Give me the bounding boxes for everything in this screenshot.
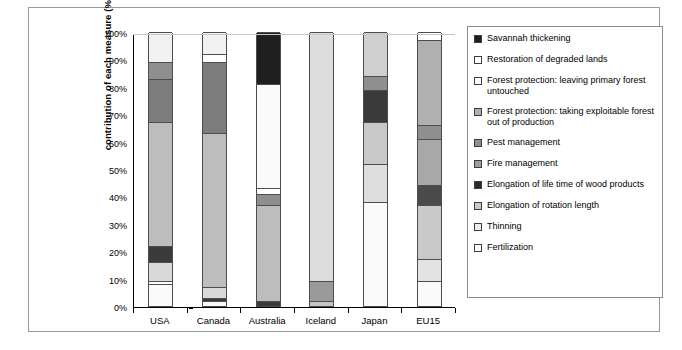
bar-segment[interactable] (257, 84, 280, 188)
legend-swatch-icon (474, 35, 482, 43)
bar-segment[interactable] (149, 79, 172, 123)
bar-segment[interactable] (149, 122, 172, 245)
bar-segment[interactable] (203, 301, 226, 306)
y-tick-label: 60% (89, 140, 127, 149)
stacked-bar[interactable] (148, 33, 173, 307)
stacked-bar[interactable] (309, 33, 334, 307)
x-tick-mark (455, 308, 456, 313)
bar-segment[interactable] (149, 246, 172, 262)
stacked-bar[interactable] (363, 33, 388, 307)
x-tick-mark (187, 308, 188, 313)
y-tick-label: 30% (89, 222, 127, 231)
bar-segment[interactable] (203, 287, 226, 298)
bar-segment[interactable] (364, 202, 387, 306)
bar-segment[interactable] (310, 281, 333, 300)
stacked-bar[interactable] (417, 33, 442, 307)
bar-segment[interactable] (364, 76, 387, 90)
stacked-bar[interactable] (202, 33, 227, 307)
legend-label: Elongation of rotation length (487, 200, 599, 211)
legend-item[interactable]: Thinning (474, 221, 658, 233)
legend-swatch-icon (474, 223, 482, 231)
bar-segment[interactable] (310, 301, 333, 306)
bar-segment[interactable] (149, 284, 172, 306)
legend-label: Forest protection: leaving primary fores… (487, 75, 658, 97)
y-tick-label: 80% (89, 85, 127, 94)
bar-segment[interactable] (364, 32, 387, 76)
y-tick-label: 90% (89, 57, 127, 66)
bar-group-usa[interactable] (148, 33, 173, 307)
y-tick-label: 20% (89, 249, 127, 258)
legend-item[interactable]: Restoration of degraded lands (474, 54, 658, 66)
legend-label: Restoration of degraded lands (487, 54, 608, 65)
y-tick-label: 100% (89, 30, 127, 39)
bar-segment[interactable] (418, 40, 441, 125)
bar-segment[interactable] (418, 125, 441, 139)
bar-segment[interactable] (149, 62, 172, 78)
legend-item[interactable]: Elongation of life time of wood products (474, 179, 658, 191)
y-tick-mark (189, 308, 193, 309)
legend-swatch-icon (474, 108, 482, 116)
figure-caption (28, 337, 668, 349)
legend-label: Pest management (487, 137, 560, 148)
plot-top-rule (133, 34, 455, 35)
bar-group-canada[interactable] (202, 33, 227, 307)
legend-item[interactable]: Elongation of rotation length (474, 200, 658, 212)
legend-label: Forest protection: taking exploitable fo… (487, 106, 658, 128)
bar-segment[interactable] (310, 32, 333, 281)
bar-segment[interactable] (257, 205, 280, 301)
stacked-bar[interactable] (256, 33, 281, 307)
x-axis-label-eu15: EU15 (388, 315, 468, 326)
bar-group-iceland[interactable] (309, 33, 334, 307)
bar-segment[interactable] (257, 301, 280, 306)
legend-label: Thinning (487, 221, 522, 232)
legend-item[interactable]: Savannah thickening (474, 33, 658, 45)
bar-segment[interactable] (203, 54, 226, 62)
bar-segment[interactable] (418, 281, 441, 306)
legend-swatch-icon (474, 202, 482, 210)
bar-group-australia[interactable] (256, 33, 281, 307)
y-axis-ticks: 100%90%80%70%60%50%40%30%20%10%0% (89, 34, 133, 308)
bar-segment[interactable] (364, 90, 387, 123)
bar-group-japan[interactable] (363, 33, 388, 307)
bar-segment[interactable] (257, 32, 280, 84)
bar-segment[interactable] (257, 194, 280, 205)
x-tick-mark (133, 308, 134, 313)
bar-segment[interactable] (418, 185, 441, 204)
figure-frame: contribution of each measure (%) 100%90%… (28, 7, 660, 332)
bar-group-eu15[interactable] (417, 33, 442, 307)
legend-swatch-icon (474, 160, 482, 168)
legend-item[interactable]: Forest protection: taking exploitable fo… (474, 106, 658, 128)
y-tick-label: 50% (89, 167, 127, 176)
x-tick-mark (348, 308, 349, 313)
legend-label: Fire management (487, 158, 558, 169)
legend-item[interactable]: Pest management (474, 137, 658, 149)
bar-segment[interactable] (418, 139, 441, 186)
legend-item[interactable]: Forest protection: leaving primary fores… (474, 75, 658, 97)
legend-swatch-icon (474, 77, 482, 85)
x-tick-mark (401, 308, 402, 313)
legend-swatch-icon (474, 139, 482, 147)
y-tick-label: 0% (89, 304, 127, 313)
legend-item[interactable]: Fertilization (474, 242, 658, 254)
legend-label: Elongation of life time of wood products (487, 179, 644, 190)
bar-segment[interactable] (418, 205, 441, 260)
plot-area (133, 34, 455, 308)
legend-swatch-icon (474, 244, 482, 252)
y-tick-label: 70% (89, 112, 127, 121)
bar-segment[interactable] (418, 259, 441, 281)
legend-swatch-icon (474, 56, 482, 64)
legend-swatch-icon (474, 181, 482, 189)
bar-segment[interactable] (149, 262, 172, 281)
bar-segment[interactable] (203, 133, 226, 286)
figure-container: contribution of each measure (%) 100%90%… (0, 0, 682, 350)
bar-series-container (134, 34, 455, 307)
bar-segment[interactable] (203, 32, 226, 54)
bar-segment[interactable] (149, 32, 172, 62)
bar-segment[interactable] (364, 122, 387, 163)
chart-legend: Savannah thickeningRestoration of degrad… (467, 26, 663, 298)
legend-item[interactable]: Fire management (474, 158, 658, 170)
bar-segment[interactable] (364, 164, 387, 202)
y-tick-label: 10% (89, 277, 127, 286)
bar-segment[interactable] (203, 62, 226, 133)
x-tick-mark (294, 308, 295, 313)
